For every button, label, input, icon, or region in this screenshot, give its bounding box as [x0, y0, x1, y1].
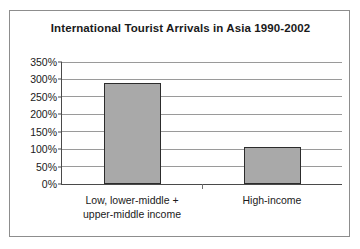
y-axis-tick-mark	[58, 96, 62, 97]
y-axis-tick-label: 300%	[30, 74, 57, 85]
chart-page: International Tourist Arrivals in Asia 1…	[0, 0, 360, 249]
plot-area: 0%50%100%150%200%250%300%350%Low, lower-…	[61, 62, 342, 185]
chart-title: International Tourist Arrivals in Asia 1…	[10, 22, 351, 34]
y-axis-tick-label: 50%	[36, 161, 57, 172]
x-axis-category-label: Low, lower-middle +upper-middle income	[62, 193, 202, 221]
y-axis-tick-mark	[58, 62, 62, 63]
y-axis-tick-label: 0%	[42, 179, 57, 190]
y-axis-tick-mark	[58, 114, 62, 115]
x-axis-category-label-line: High-income	[202, 193, 342, 207]
bar	[244, 147, 301, 184]
y-axis-tick-label: 150%	[30, 126, 57, 137]
y-axis-tick-label: 250%	[30, 92, 57, 103]
y-axis-tick-label: 100%	[30, 144, 57, 155]
x-axis-category-label: High-income	[202, 193, 342, 207]
gridline	[62, 62, 342, 63]
y-axis-tick-label: 350%	[30, 57, 57, 68]
x-axis-category-separator	[202, 184, 203, 189]
y-axis-tick-label: 200%	[30, 109, 57, 120]
bar	[104, 83, 161, 184]
x-axis-category-label-line: Low, lower-middle +	[62, 193, 202, 207]
y-axis-tick-mark	[58, 166, 62, 167]
gridline	[62, 79, 342, 80]
chart-frame: International Tourist Arrivals in Asia 1…	[9, 10, 350, 237]
y-axis-tick-mark	[58, 184, 62, 185]
x-axis-category-label-line: upper-middle income	[62, 207, 202, 221]
y-axis-tick-mark	[58, 131, 62, 132]
y-axis-tick-mark	[58, 149, 62, 150]
y-axis-tick-mark	[58, 79, 62, 80]
